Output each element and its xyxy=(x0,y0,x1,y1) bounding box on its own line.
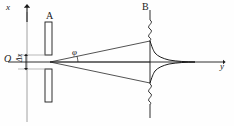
ray-lower xyxy=(50,62,150,83)
screen-label: B xyxy=(142,2,149,12)
diffraction-angle-label: φ xyxy=(72,48,77,57)
diffraction-figure: x y O A B φ Δx xyxy=(0,0,234,126)
angle-arc xyxy=(77,56,78,62)
screen-break-upper xyxy=(149,20,152,40)
slit-plate-upper xyxy=(45,22,52,55)
slit-aperture-label: A xyxy=(46,11,53,21)
origin-label: O xyxy=(4,54,11,64)
diffraction-diagram-svg xyxy=(0,0,234,126)
slit-width-label: Δx xyxy=(16,54,24,62)
axis-x-label: x xyxy=(6,3,10,12)
slit-plate-lower xyxy=(45,69,52,102)
axis-y-label: y xyxy=(220,62,224,71)
screen-break-lower xyxy=(149,84,152,104)
ray-upper xyxy=(50,41,150,62)
